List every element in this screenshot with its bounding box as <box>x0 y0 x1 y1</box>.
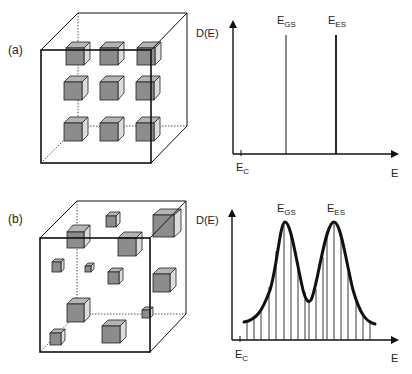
quantum-dot <box>136 117 160 141</box>
y-axis-label: D(E) <box>196 214 219 226</box>
egs-label: EGS <box>277 202 296 217</box>
ees-label: EES <box>327 202 345 217</box>
egs-label: EGS <box>277 14 296 29</box>
quantum-dot <box>85 263 94 272</box>
quantum-dot <box>153 209 181 237</box>
ees-label: EES <box>328 14 346 29</box>
quantum-dot <box>108 268 123 284</box>
container-cube-a <box>41 13 187 163</box>
quantum-dot <box>118 232 142 256</box>
quantum-dot <box>137 42 161 65</box>
quantum-dot <box>136 76 160 100</box>
y-axis-label: D(E) <box>196 27 219 39</box>
quantum-dot <box>52 259 64 272</box>
quantum-dot <box>64 76 88 100</box>
figure: (a) <box>0 0 412 374</box>
ec-label: EC <box>235 348 248 363</box>
x-axis-label: E <box>391 167 398 179</box>
x-axis-label: E <box>391 352 398 364</box>
quantum-dot <box>142 307 153 318</box>
quantum-dot-random-array-b <box>50 209 181 345</box>
dos-chart-a: D(E) E EC EGS EES <box>196 14 398 179</box>
quantum-dot <box>100 117 124 141</box>
quantum-dot <box>102 320 126 343</box>
quantum-dot <box>67 225 90 248</box>
quantum-dot <box>100 76 124 100</box>
quantum-dot <box>66 42 90 65</box>
quantum-dot <box>64 117 88 141</box>
dos-chart-b: D(E) E EC EGS EES <box>196 202 398 364</box>
container-cube-b <box>40 201 186 352</box>
dos-curve <box>244 222 375 324</box>
ec-label: EC <box>236 161 249 176</box>
quantum-dot-grid-a <box>64 42 161 141</box>
panel-a: (a) <box>8 13 398 179</box>
panel-label-b: (b) <box>8 212 23 226</box>
quantum-dot <box>67 298 90 322</box>
quantum-dot <box>50 329 65 345</box>
panel-b: (b) <box>8 201 398 364</box>
quantum-dot <box>153 268 176 292</box>
quantum-dot <box>106 212 120 227</box>
panel-label-a: (a) <box>8 43 23 57</box>
quantum-dot <box>100 42 124 65</box>
